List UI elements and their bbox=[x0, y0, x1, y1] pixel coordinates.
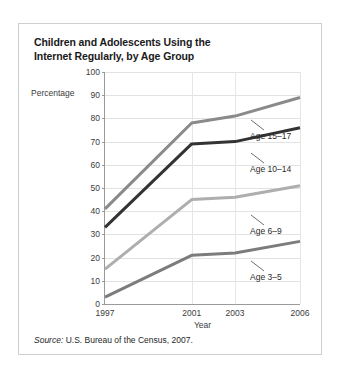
source-text: U.S. Bureau of the Census, 2007. bbox=[63, 335, 192, 345]
series-label: Age 6–9 bbox=[250, 226, 282, 236]
y-tick-label: 30 bbox=[91, 229, 100, 239]
figure-frame: Children and Adolescents Using the Inter… bbox=[18, 23, 322, 355]
plot-area: 0102030405060708090100 1997200120032006 … bbox=[105, 72, 300, 304]
series-label: Age 10–14 bbox=[250, 164, 291, 174]
y-tick-mark bbox=[102, 304, 105, 305]
chart-title: Children and Adolescents Using the Inter… bbox=[34, 35, 299, 63]
x-axis-line bbox=[104, 304, 300, 305]
y-tick-label: 40 bbox=[91, 206, 100, 216]
x-tick-label: 2001 bbox=[182, 308, 201, 318]
chart-title-line-2: Internet Regularly, by Age Group bbox=[34, 49, 299, 63]
x-tick-label: 2003 bbox=[226, 308, 245, 318]
y-tick-label: 80 bbox=[91, 113, 100, 123]
series-line bbox=[105, 241, 300, 297]
gridline-vertical bbox=[300, 72, 301, 304]
y-tick-label: 70 bbox=[91, 137, 100, 147]
series-label-leader bbox=[251, 120, 264, 130]
series-lines bbox=[105, 72, 300, 304]
series-label: Age 15–17 bbox=[250, 131, 291, 141]
series-label-leader bbox=[251, 215, 264, 225]
x-tick-label: 1997 bbox=[96, 308, 115, 318]
series-label-leader bbox=[251, 153, 264, 163]
source-label: Source: bbox=[34, 335, 63, 345]
y-axis-title: Percentage bbox=[31, 88, 74, 98]
series-label: Age 3–5 bbox=[250, 272, 282, 282]
y-tick-label: 60 bbox=[91, 160, 100, 170]
y-tick-label: 20 bbox=[91, 253, 100, 263]
series-line bbox=[105, 128, 300, 228]
source-note: Source: U.S. Bureau of the Census, 2007. bbox=[34, 335, 193, 345]
y-tick-label: 10 bbox=[91, 276, 100, 286]
series-label-leader bbox=[251, 261, 264, 271]
y-tick-label: 90 bbox=[91, 90, 100, 100]
chart-title-line-1: Children and Adolescents Using the bbox=[34, 35, 299, 49]
x-tick-label: 2006 bbox=[291, 308, 310, 318]
y-tick-label: 50 bbox=[91, 183, 100, 193]
x-axis-title: Year bbox=[105, 320, 300, 330]
y-tick-label: 100 bbox=[86, 67, 100, 77]
